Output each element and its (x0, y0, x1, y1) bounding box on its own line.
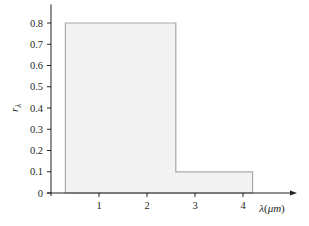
x-axis-title: λ(μm) (258, 202, 285, 215)
y-tick-label: 0.8 (30, 18, 43, 29)
x-tick-label: 3 (192, 200, 197, 211)
x-tick-label: 4 (240, 200, 246, 211)
y-tick-label: 0.2 (30, 145, 43, 156)
svg-text:rλ: rλ (8, 104, 23, 112)
y-tick-label: 0.7 (30, 39, 43, 50)
y-tick-label: 0 (38, 188, 43, 199)
reflectivity-step-chart: 00.10.20.30.40.50.60.70.81234λ(μm)rλ (0, 0, 309, 226)
reflectivity-area (65, 23, 252, 193)
x-tick-label: 2 (144, 200, 149, 211)
y-tick-label: 0.1 (30, 166, 43, 177)
y-tick-label: 0.6 (30, 60, 43, 71)
y-tick-label: 0.5 (30, 81, 43, 92)
y-tick-label: 0.3 (30, 124, 43, 135)
y-axis-title: rλ (8, 104, 23, 112)
x-tick-label: 1 (96, 200, 101, 211)
plot-area (65, 23, 252, 193)
x-axis-arrow-icon (290, 191, 297, 196)
y-tick-label: 0.4 (30, 103, 44, 114)
